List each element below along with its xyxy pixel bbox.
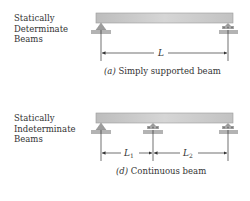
beam <box>96 113 233 123</box>
beam-diagram: L L1 L2 <box>0 0 250 201</box>
roller-support-icon <box>219 123 238 134</box>
span-label-L2: L2 <box>182 148 193 159</box>
span-label-L: L <box>157 48 164 58</box>
span-label-L1: L1 <box>123 148 134 159</box>
continuous-beam: L1 L2 <box>91 113 238 161</box>
roller-support-icon <box>219 23 238 34</box>
beam <box>96 13 233 23</box>
simply-supported-beam: L <box>91 13 238 61</box>
